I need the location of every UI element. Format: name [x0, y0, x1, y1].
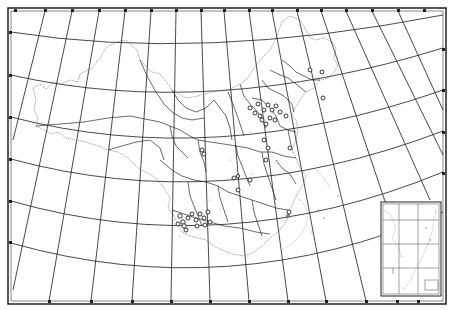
graticule-parallels: [11, 15, 443, 268]
south-china-sea-inset: [381, 202, 441, 296]
sampling-sites: [176, 68, 325, 232]
inset-scale-box: [425, 280, 438, 290]
national-boundary: [33, 16, 338, 256]
graticule-meridians: [13, 11, 443, 301]
china-outline-map: [0, 0, 454, 310]
